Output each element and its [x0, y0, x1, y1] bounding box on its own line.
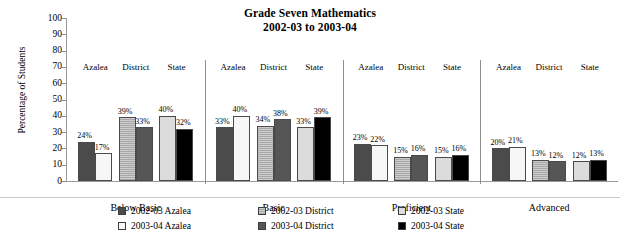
bar[interactable]	[509, 147, 526, 181]
bar[interactable]	[233, 116, 250, 181]
legend-label: 2003-04 Azalea	[131, 221, 191, 231]
bar[interactable]	[492, 148, 509, 181]
legend-item[interactable]: 2002-03 Azalea	[118, 206, 258, 216]
legend-swatch-icon	[258, 222, 266, 230]
bar[interactable]	[119, 117, 136, 181]
bar-value-label: 16%	[411, 145, 426, 153]
bar[interactable]	[297, 127, 314, 181]
bar-group: Azalea23%22%District15%16%State15%16%Pro…	[343, 18, 481, 181]
bar[interactable]	[176, 129, 193, 181]
bar-value-label: 12%	[549, 152, 564, 160]
bar[interactable]	[590, 160, 607, 181]
legend-swatch-icon	[118, 207, 126, 215]
bar[interactable]	[532, 160, 549, 181]
bar-value-label: 33%	[296, 118, 311, 126]
legend-item[interactable]: 2002-03 State	[398, 206, 538, 216]
bar[interactable]	[394, 157, 411, 181]
bar[interactable]	[257, 126, 274, 181]
legend-swatch-icon	[398, 222, 406, 230]
bar-subgroup: District13%12%	[529, 18, 570, 181]
bar[interactable]	[371, 145, 388, 181]
y-tick-label: 0	[28, 177, 62, 186]
bar-value-label: 32%	[176, 119, 191, 127]
legend-label: 2002-03 District	[271, 206, 334, 216]
bar-group: Azalea20%21%District13%12%State12%13%Adv…	[480, 18, 618, 181]
bar-value-label: 23%	[353, 134, 368, 142]
bar-value-label: 39%	[314, 108, 329, 116]
bar-value-label: 12%	[572, 152, 587, 160]
chart-legend: 2002-03 Azalea2002-03 District2002-03 St…	[118, 203, 538, 233]
legend-label: 2003-04 District	[271, 221, 334, 231]
bar[interactable]	[95, 153, 112, 181]
bar-value-label: 21%	[508, 137, 523, 145]
legend-item[interactable]: 2003-04 District	[258, 221, 398, 231]
bar-group: Azalea33%40%District34%38%State33%39%Bas…	[205, 18, 343, 181]
legend-divider	[0, 197, 620, 198]
bar-subgroup: State40%32%	[156, 18, 197, 181]
bar[interactable]	[573, 161, 590, 181]
bar[interactable]	[274, 119, 291, 181]
bar-subgroup: State33%39%	[294, 18, 335, 181]
legend-item[interactable]: 2002-03 District	[258, 206, 398, 216]
y-tick-label: 10	[28, 160, 62, 169]
y-tick-label: 70	[28, 62, 62, 71]
bar[interactable]	[549, 161, 566, 181]
bar-value-label: 24%	[77, 132, 92, 140]
legend-swatch-icon	[118, 222, 126, 230]
bar-value-label: 22%	[370, 136, 385, 144]
y-tick-label: 100	[28, 14, 62, 23]
y-tick-label: 60	[28, 79, 62, 88]
legend-swatch-icon	[398, 207, 406, 215]
legend-row: 2002-03 Azalea2002-03 District2002-03 St…	[118, 203, 538, 218]
bar-subgroup: Azalea23%22%	[351, 18, 392, 181]
legend-item[interactable]: 2003-04 State	[398, 221, 538, 231]
bar-value-label: 33%	[135, 118, 150, 126]
chart-container: Grade Seven Mathematics 2002-03 to 2003-…	[0, 0, 620, 245]
y-tick-label: 40	[28, 111, 62, 120]
bar[interactable]	[78, 142, 95, 181]
y-tick-label: 50	[28, 95, 62, 104]
bar-value-label: 38%	[273, 110, 288, 118]
bar-value-label: 13%	[531, 150, 546, 158]
bar-subgroup: State15%16%	[432, 18, 473, 181]
bar-subgroup: Azalea20%21%	[488, 18, 529, 181]
legend-label: 2003-04 State	[411, 221, 464, 231]
legend-label: 2002-03 Azalea	[131, 206, 191, 216]
bar-value-label: 33%	[215, 118, 230, 126]
bar-value-label: 15%	[393, 147, 408, 155]
bar[interactable]	[435, 157, 452, 181]
bar[interactable]	[452, 155, 469, 181]
bar-group: Azalea24%17%District39%33%State40%32%Bel…	[67, 18, 205, 181]
legend-swatch-icon	[258, 207, 266, 215]
y-tick-label: 90	[28, 30, 62, 39]
y-axis-ticks: 1009080706050403020100	[0, 0, 62, 200]
bar-value-label: 34%	[256, 116, 271, 124]
bar-value-label: 39%	[118, 108, 133, 116]
y-tick-label: 80	[28, 46, 62, 55]
bar-value-label: 13%	[589, 150, 604, 158]
legend-label: 2002-03 State	[411, 206, 464, 216]
bar[interactable]	[411, 155, 428, 181]
bar-value-label: 17%	[95, 144, 110, 152]
bar-subgroup: District15%16%	[391, 18, 432, 181]
bar-value-label: 16%	[451, 145, 466, 153]
bar[interactable]	[159, 116, 176, 181]
y-tick-label: 30	[28, 128, 62, 137]
bar-value-label: 20%	[491, 139, 506, 147]
bar-subgroup: Azalea33%40%	[213, 18, 254, 181]
bar-subgroup: State12%13%	[569, 18, 610, 181]
bar-value-label: 40%	[158, 106, 173, 114]
bar-subgroup: Azalea24%17%	[75, 18, 116, 181]
bar-value-label: 40%	[233, 106, 248, 114]
bar-value-label: 15%	[434, 147, 449, 155]
legend-item[interactable]: 2003-04 Azalea	[118, 221, 258, 231]
bar[interactable]	[314, 117, 331, 181]
y-tick-label: 20	[28, 144, 62, 153]
bar[interactable]	[136, 127, 153, 181]
bar[interactable]	[354, 144, 371, 181]
bar[interactable]	[216, 127, 233, 181]
bar-subgroup: District39%33%	[116, 18, 157, 181]
legend-row: 2003-04 Azalea2003-04 District2003-04 St…	[118, 218, 538, 233]
plot-area: Azalea24%17%District39%33%State40%32%Bel…	[67, 18, 618, 181]
bar-subgroup: District34%38%	[253, 18, 294, 181]
